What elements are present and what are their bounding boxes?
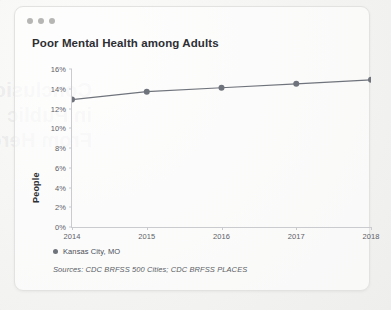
y-axis-tick-mark: [69, 148, 72, 149]
x-axis-tick-mark: [296, 227, 297, 230]
y-axis-tick-mark: [69, 167, 72, 168]
window-controls: [27, 18, 55, 24]
chart-legend[interactable]: Kansas City, MO: [53, 247, 120, 256]
y-axis-tick-label: 2%: [55, 203, 66, 212]
x-axis-tick-mark: [72, 227, 73, 230]
y-axis-tick-mark: [69, 207, 72, 208]
x-axis-tick-mark: [147, 227, 148, 230]
y-axis-tick-label: 8%: [55, 144, 66, 153]
x-axis-tick-label: 2014: [63, 232, 80, 241]
y-axis-tick-label: 16%: [51, 65, 66, 74]
y-axis-tick-mark: [69, 88, 72, 89]
source-note: Sources: CDC BRFSS 500 Cities; CDC BRFSS…: [53, 265, 247, 274]
window-dot-icon[interactable]: [49, 18, 55, 24]
data-point-marker[interactable]: [72, 97, 75, 103]
chart-title: Poor Mental Health among Adults: [32, 37, 219, 49]
y-axis-line: [71, 69, 72, 228]
y-axis-tick-label: 4%: [55, 183, 66, 192]
window-dot-icon[interactable]: [27, 18, 33, 24]
data-point-marker[interactable]: [219, 85, 225, 91]
data-point-marker[interactable]: [368, 77, 371, 83]
y-axis-tick-label: 12%: [51, 104, 66, 113]
legend-marker-icon: [53, 249, 58, 254]
chart-card: Poor Mental Health among Adults People 0…: [14, 6, 370, 291]
legend-series-label: Kansas City, MO: [63, 247, 120, 256]
y-axis-tick-label: 14%: [51, 84, 66, 93]
x-axis-tick-mark: [222, 227, 223, 230]
x-axis-tick-label: 2018: [362, 232, 379, 241]
line-series-svg: [72, 69, 371, 228]
y-axis-tick-label: 10%: [51, 124, 66, 133]
y-axis-tick-label: 0%: [55, 223, 66, 232]
x-axis-tick-label: 2016: [213, 232, 230, 241]
y-axis-title: People: [31, 172, 41, 203]
x-axis-tick-label: 2017: [288, 232, 305, 241]
y-axis-tick-label: 6%: [55, 163, 66, 172]
y-axis-tick-mark: [69, 128, 72, 129]
window-dot-icon[interactable]: [38, 18, 44, 24]
x-axis-tick-mark: [371, 227, 372, 230]
data-point-marker[interactable]: [293, 81, 299, 87]
y-axis-tick-mark: [69, 69, 72, 70]
scanned-page-background: Conclusion—Communication in Public Healt…: [0, 0, 391, 310]
data-point-marker[interactable]: [144, 89, 150, 95]
plot-area: 0%2%4%6%8%10%12%14%16%201420152016201720…: [72, 69, 371, 227]
y-axis-tick-mark: [69, 187, 72, 188]
x-axis-tick-label: 2015: [138, 232, 155, 241]
y-axis-tick-mark: [69, 108, 72, 109]
